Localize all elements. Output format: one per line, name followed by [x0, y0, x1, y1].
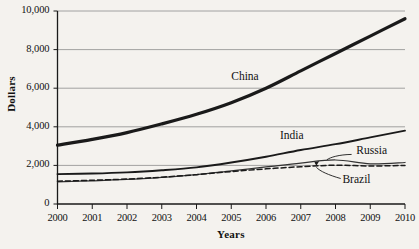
x-tick-label: 2003	[145, 212, 179, 223]
y-tick-label: 8,000	[2, 43, 50, 54]
brazil-leader-line	[316, 167, 340, 178]
x-tick-label: 2007	[284, 212, 318, 223]
series-label-brazil: Brazil	[342, 173, 370, 185]
y-tick-label: 10,000	[2, 4, 50, 15]
series-label-india: India	[280, 129, 304, 141]
x-tick-label: 2006	[249, 212, 283, 223]
x-tick-label: 2000	[41, 212, 75, 223]
x-tick-label: 2001	[75, 212, 109, 223]
x-tick-label: 2004	[180, 212, 214, 223]
x-tick-label: 2005	[214, 212, 248, 223]
series-line-china	[58, 19, 406, 145]
x-tick-label: 2010	[388, 212, 419, 223]
x-tick-label: 2009	[353, 212, 387, 223]
y-tick-label: 4,000	[2, 120, 50, 131]
x-tick-label: 2008	[319, 212, 353, 223]
x-tick-label: 2002	[110, 212, 144, 223]
y-tick-label: 0	[2, 197, 50, 208]
y-tick-label: 2,000	[2, 158, 50, 169]
series-label-china: China	[231, 70, 258, 82]
russia-leader-line	[327, 154, 352, 159]
series-label-russia: Russia	[356, 144, 387, 156]
y-tick-label: 6,000	[2, 81, 50, 92]
chart-figure: Dollars Years 02,0004,0006,0008,00010,00…	[0, 0, 419, 249]
